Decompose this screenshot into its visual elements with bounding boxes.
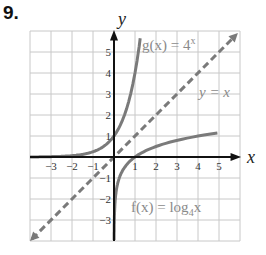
f-logarithmic-curve <box>114 133 217 240</box>
x-tick-label: −3 <box>45 160 57 172</box>
x-tick-label: 4 <box>195 160 201 172</box>
identity-line-label: y = x <box>197 84 230 100</box>
x-axis-label: x <box>246 147 255 167</box>
x-tick-label: 2 <box>153 160 159 172</box>
y-tick-label: 3 <box>106 88 112 100</box>
graph: −3−2−11234554321−1−2−3 y x g(x) = 4x y =… <box>0 0 266 255</box>
y-tick-label: 4 <box>106 67 112 79</box>
x-tick-label: −2 <box>66 160 78 172</box>
y-axis-label: y <box>116 9 126 29</box>
x-tick-label: 1 <box>132 160 138 172</box>
y-tick-label: 1 <box>106 130 112 142</box>
y-tick-label: 5 <box>106 46 112 58</box>
f-function-label: f(x) = log4x <box>131 199 202 218</box>
x-tick-label: 3 <box>174 160 180 172</box>
x-tick-label: −1 <box>87 160 99 172</box>
g-exponential-curve <box>30 38 140 157</box>
x-axis-arrow-icon <box>231 153 242 161</box>
x-tick-label: 5 <box>216 160 222 172</box>
g-function-label: g(x) = 4x <box>142 35 195 54</box>
y-tick-label: −1 <box>99 172 111 184</box>
y-axis-arrow-icon <box>110 30 118 41</box>
y-tick-label: −3 <box>99 214 111 226</box>
y-tick-label: 2 <box>106 109 112 121</box>
y-tick-label: −2 <box>99 193 111 205</box>
